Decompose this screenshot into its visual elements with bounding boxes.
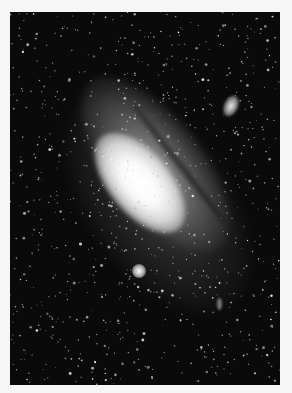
starfield — [10, 12, 280, 385]
galaxy-photo — [10, 12, 280, 385]
page — [0, 0, 292, 393]
